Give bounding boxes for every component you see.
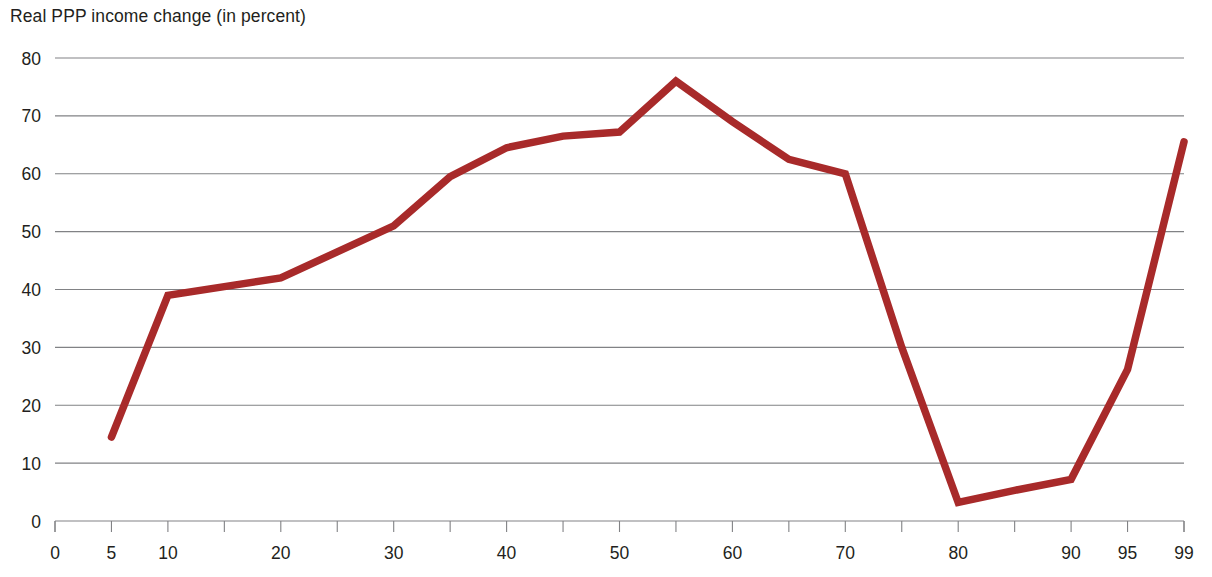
y-axis-tick-label: 80 bbox=[22, 49, 42, 69]
x-axis-tick-label: 50 bbox=[610, 543, 630, 563]
x-axis-tick-label: 10 bbox=[158, 543, 178, 563]
y-axis-tick-label: 40 bbox=[22, 280, 42, 300]
y-axis-tick-label: 50 bbox=[22, 222, 42, 242]
line-chart-plot: 01020304050607080 0510203040506070809095… bbox=[0, 0, 1212, 577]
y-axis-tick-labels: 01020304050607080 bbox=[22, 49, 42, 532]
y-axis-tick-label: 30 bbox=[22, 338, 42, 358]
x-axis-tick-label: 20 bbox=[271, 543, 291, 563]
x-axis-tick-label: 90 bbox=[1061, 543, 1081, 563]
y-axis-tick-label: 0 bbox=[31, 512, 41, 532]
x-axis-tick-label: 60 bbox=[723, 543, 743, 563]
x-axis-tick-label: 0 bbox=[50, 543, 60, 563]
x-axis-tick-label: 40 bbox=[497, 543, 517, 563]
y-axis-tick-label: 10 bbox=[22, 454, 42, 474]
x-axis-tick-label: 5 bbox=[107, 543, 117, 563]
x-axis-tick-labels: 051020304050607080909599 bbox=[50, 543, 1194, 563]
x-axis bbox=[55, 521, 1184, 532]
data-series-line bbox=[111, 81, 1184, 502]
data-series-group bbox=[111, 81, 1184, 502]
x-axis-tick-label: 30 bbox=[384, 543, 404, 563]
y-axis-tick-label: 60 bbox=[22, 164, 42, 184]
x-axis-tick-label: 99 bbox=[1174, 543, 1193, 563]
y-axis-tick-label: 20 bbox=[22, 396, 42, 416]
gridlines-group bbox=[55, 58, 1184, 463]
x-axis-tick-label: 80 bbox=[948, 543, 968, 563]
y-axis-tick-label: 70 bbox=[22, 106, 42, 126]
chart-container: Real PPP income change (in percent) 0102… bbox=[0, 0, 1212, 577]
x-axis-tick-label: 95 bbox=[1118, 543, 1137, 563]
x-axis-tick-label: 70 bbox=[836, 543, 856, 563]
